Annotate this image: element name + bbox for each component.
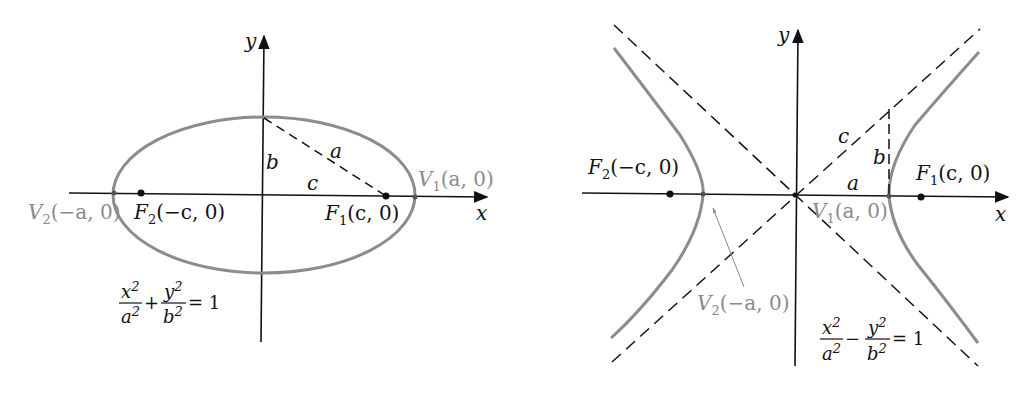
- ellipse-vertex-left-label: V2(−a, 0): [28, 200, 120, 227]
- hyperbola-equation: x2 a2 − y2 b2 = 1: [820, 315, 924, 364]
- hyperbola-vertex-left-point: [701, 192, 706, 197]
- hyperbola-label-a: a: [847, 171, 859, 195]
- svg-text:a2: a2: [121, 304, 140, 327]
- ellipse-panel: y x b a c V1(a, 0) V2(−a, 0) F2(−c, 0) F…: [28, 29, 494, 342]
- hyperbola-focus-right-point: [918, 194, 925, 201]
- hyperbola-vertex-right-label: V1(a, 0): [812, 199, 888, 226]
- hyperbola-vertex-right-point: [887, 194, 892, 199]
- hyperbola-center-point: [793, 193, 798, 198]
- svg-text:a2: a2: [822, 341, 841, 364]
- svg-text:+: +: [144, 292, 159, 313]
- hyperbola-focus-left-point: [667, 191, 674, 198]
- hyperbola-focus-right-label: F1(c, 0): [915, 161, 990, 188]
- hyperbola-vertex-left-label: V2(−a, 0): [697, 291, 789, 318]
- hyperbola-label-c: c: [838, 124, 849, 148]
- ellipse-segment-a: [264, 118, 386, 196]
- hyperbola-y-axis: [795, 30, 798, 366]
- hyperbola-y-label: y: [777, 23, 790, 47]
- ellipse-focus-right-label: F1(c, 0): [324, 201, 399, 228]
- svg-text:b2: b2: [163, 304, 183, 327]
- ellipse-focus-left-point: [138, 190, 145, 197]
- ellipse-vertex-right-point: [413, 195, 418, 200]
- ellipse-focus-right-point: [383, 193, 390, 200]
- ellipse-focus-left-label: F2(−c, 0): [133, 200, 225, 227]
- hyperbola-label-b: b: [873, 145, 886, 169]
- ellipse-y-label: y: [244, 29, 257, 53]
- ellipse-x-axis: [69, 193, 487, 197]
- ellipse-vertex-left-point: [112, 191, 117, 196]
- svg-text:y2: y2: [867, 315, 886, 338]
- svg-text:= 1: = 1: [188, 292, 220, 313]
- hyperbola-x-label: x: [995, 202, 1006, 226]
- svg-text:y2: y2: [163, 279, 182, 302]
- hyperbola-focus-left-label: F2(−c, 0): [587, 155, 679, 182]
- ellipse-vertex-right-label: V1(a, 0): [418, 167, 494, 194]
- ellipse-x-label: x: [476, 201, 487, 225]
- hyperbola-right-branch: [889, 52, 979, 343]
- conics-diagram: y x b a c V1(a, 0) V2(−a, 0) F2(−c, 0) F…: [0, 0, 1032, 393]
- svg-text:x2: x2: [121, 279, 139, 302]
- svg-text:b2: b2: [867, 341, 887, 364]
- ellipse-label-b: b: [266, 150, 279, 174]
- svg-text:= 1: = 1: [892, 328, 924, 349]
- svg-text:−: −: [845, 328, 860, 349]
- svg-text:x2: x2: [822, 315, 840, 338]
- ellipse-equation: x2 a2 + y2 b2 = 1: [119, 279, 220, 327]
- ellipse-label-a: a: [330, 139, 342, 163]
- ellipse-y-axis: [261, 36, 264, 342]
- hyperbola-panel: y x c b a F2(−c, 0) F1(c, 0) V1(a, 0) V2…: [582, 23, 1008, 366]
- ellipse-label-c: c: [307, 171, 318, 195]
